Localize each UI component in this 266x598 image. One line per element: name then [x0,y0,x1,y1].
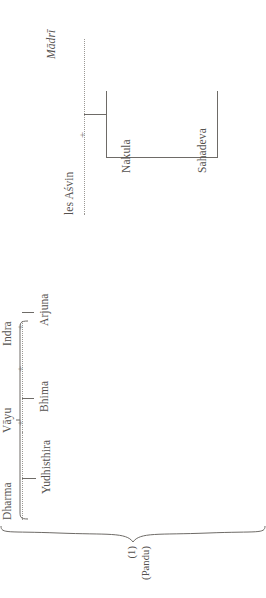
root-name-label: (Pandu) [140,546,151,598]
descent-stub-arjuna [22,312,34,313]
genealogy-diagram: (1) (Pandu) Dharma + Yudhisthira Vāyu + … [0,0,266,598]
child-label-arjuna: Arjuna [38,293,50,326]
child-label-sahadeva: Sahadeva [196,128,208,173]
father-label-vayu: Vāyu [1,408,13,433]
father-label-dharma: Dharma [1,482,13,520]
root-index-label: (1) [126,546,137,568]
mother-label-madri: Mādrī [45,30,57,59]
tree-canvas: (1) (Pandu) Dharma + Yudhisthira Vāyu + … [0,0,266,598]
root-brace [0,525,266,543]
union-line-asvin-madri [84,39,85,215]
child-label-nakula: Nakula [120,139,132,173]
child-label-yudhisthira: Yudhisthira [40,440,52,494]
kunti-group-rule [16,319,28,520]
child-label-bhima: Bhima [38,381,50,412]
descent-stub-asvin-madri [84,114,106,115]
father-label-indra: Indra [1,321,13,346]
father-label-asvin: les Aśvin [63,172,75,215]
union-plus-asvin-madri: + [77,132,88,138]
